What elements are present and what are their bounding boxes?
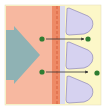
molecule-icon bbox=[94, 70, 99, 75]
molecule-icon bbox=[39, 36, 44, 41]
diagram-canvas bbox=[0, 0, 106, 111]
molecule-icon bbox=[39, 69, 44, 74]
molecule-icon bbox=[85, 36, 90, 41]
inner-strip bbox=[60, 6, 65, 104]
barrier-strip bbox=[52, 6, 60, 104]
